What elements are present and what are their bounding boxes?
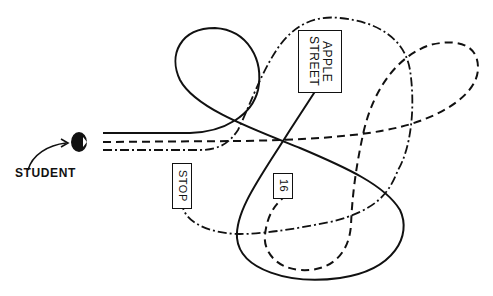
route-diagram xyxy=(0,0,493,296)
sixteen-sign: 16 xyxy=(273,173,293,199)
stop-label: STOP xyxy=(176,170,188,202)
sixteen-label: 16 xyxy=(277,179,289,192)
apple-street-label: APPLE STREET xyxy=(307,36,332,86)
apple-street-sign: APPLE STREET xyxy=(298,30,342,93)
dashed-path xyxy=(103,42,478,270)
stop-sign: STOP xyxy=(172,163,192,209)
student-label: STUDENT xyxy=(15,166,76,180)
